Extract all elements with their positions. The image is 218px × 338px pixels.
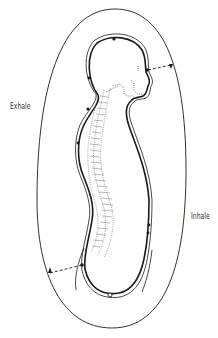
front-abdomen-point-2	[147, 232, 150, 235]
mid-back-point	[77, 142, 80, 145]
crown-point	[112, 37, 115, 40]
body-outline-outer	[76, 34, 153, 298]
lower-back-point	[80, 263, 84, 267]
arrow-up-icon	[48, 267, 52, 273]
breath-oval	[37, 9, 186, 328]
arrow-down-icon	[169, 64, 173, 69]
neck-back-point	[86, 107, 89, 110]
front-contour	[142, 250, 152, 292]
exhale-dashed-line	[148, 65, 171, 70]
vertebrae	[90, 96, 113, 247]
back-of-head-point	[88, 77, 91, 80]
skull-outline	[113, 66, 142, 96]
body-outline-channel	[79, 38, 150, 294]
brow-point	[145, 68, 149, 72]
perineum-point	[108, 293, 112, 297]
jaw-line	[106, 86, 118, 92]
exhale-label: Exhale	[10, 102, 31, 111]
breath-diagram	[0, 0, 218, 338]
inhale-label: Inhale	[191, 212, 210, 221]
front-abdomen-point-1	[148, 224, 151, 227]
